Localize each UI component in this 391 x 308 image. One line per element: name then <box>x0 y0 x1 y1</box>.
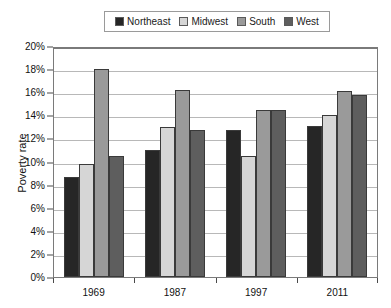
bar-northeast-2011 <box>307 126 322 277</box>
bar-south-2011 <box>337 91 352 277</box>
x-axis-tick-label: 1969 <box>53 287 134 298</box>
legend-item-midwest: Midwest <box>179 17 228 27</box>
y-axis-tick-label: 8% <box>31 181 45 191</box>
bar-midwest-2011 <box>322 115 337 277</box>
bar-group <box>135 48 216 277</box>
x-axis-tick-label: 1987 <box>134 287 215 298</box>
bar-midwest-1969 <box>79 164 94 277</box>
bar-group <box>296 48 377 277</box>
chart-legend: Northeast Midwest South West <box>104 11 330 32</box>
y-axis-tick-label: 4% <box>31 227 45 237</box>
bar-south-1997 <box>256 110 271 277</box>
x-axis-group: 2011 <box>297 278 378 304</box>
bar-groups <box>54 48 377 277</box>
x-axis-tick-label: 2011 <box>297 287 378 298</box>
bar-west-1987 <box>190 130 205 277</box>
legend-swatch-midwest <box>179 17 188 26</box>
bar-group <box>216 48 297 277</box>
bar-west-1997 <box>271 110 286 277</box>
x-axis-group: 1969 <box>53 278 134 304</box>
x-axis-tick-label: 1997 <box>216 287 297 298</box>
y-axis-tick-label: 0% <box>31 273 45 283</box>
legend-label-northeast: Northeast <box>127 17 170 27</box>
legend-label-midwest: Midwest <box>191 17 228 27</box>
x-axis-group: 1997 <box>216 278 297 304</box>
legend-swatch-northeast <box>115 17 124 26</box>
bar-west-2011 <box>352 95 367 277</box>
legend-swatch-south <box>237 17 246 26</box>
x-axis-group: 1987 <box>134 278 215 304</box>
y-axis-tick-label: 16% <box>25 88 45 98</box>
bar-south-1987 <box>175 90 190 277</box>
bar-midwest-1997 <box>241 156 256 277</box>
plot-area <box>53 47 378 278</box>
legend-item-northeast: Northeast <box>115 17 170 27</box>
y-axis-tick-label: 12% <box>25 134 45 144</box>
legend-label-south: South <box>249 17 275 27</box>
bar-northeast-1969 <box>64 177 79 277</box>
x-axis-tick-mark <box>53 278 54 283</box>
y-axis-tick-label: 14% <box>25 111 45 121</box>
bar-northeast-1997 <box>226 130 241 277</box>
legend-item-south: South <box>237 17 275 27</box>
y-axis-tick-label: 6% <box>31 204 45 214</box>
x-axis: 1969198719972011 <box>53 278 378 304</box>
legend-swatch-west <box>284 17 293 26</box>
bar-northeast-1987 <box>145 150 160 277</box>
y-axis-tick-label: 18% <box>25 65 45 75</box>
y-axis-tick-label: 10% <box>25 158 45 168</box>
x-axis-end-tick <box>377 278 378 283</box>
y-axis-tick-label: 2% <box>31 250 45 260</box>
x-axis-tick-mark <box>216 278 217 283</box>
x-axis-tick-mark <box>134 278 135 283</box>
x-axis-tick-mark <box>297 278 298 283</box>
legend-label-west: West <box>296 17 319 27</box>
y-axis: Poverty rate 0%2%4%6%8%10%12%14%16%18%20… <box>0 40 53 285</box>
bar-west-1969 <box>109 156 124 277</box>
legend-item-west: West <box>284 17 319 27</box>
y-axis-tick-label: 20% <box>25 42 45 52</box>
bar-south-1969 <box>94 69 109 277</box>
bar-group <box>54 48 135 277</box>
bar-midwest-1987 <box>160 127 175 277</box>
